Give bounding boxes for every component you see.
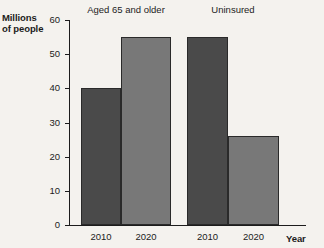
bar [187,37,228,225]
bar [228,136,279,225]
y-tick-mark [65,191,69,192]
y-tick-label: 20 [40,152,60,162]
x-axis-line [69,225,306,226]
y-tick-label: 10 [40,186,60,196]
y-tick-label: 60 [40,15,60,25]
y-tick-mark [65,225,69,226]
y-tick-mark [65,88,69,89]
group-label: Aged 65 and older [81,4,171,15]
bar-chart: Millions of people Year 6050403020100 Ag… [0,0,324,248]
bar [121,37,171,225]
y-tick-mark [65,157,69,158]
y-tick-label: 0 [40,220,60,230]
y-tick-mark [65,20,69,21]
y-tick-label: 30 [40,118,60,128]
bar [81,88,121,225]
y-tick-label: 40 [40,83,60,93]
y-tick-mark [65,54,69,55]
plot-area: 6050403020100 Aged 65 and olderUninsured… [69,20,306,225]
y-tick-label: 50 [40,49,60,59]
x-axis-title: Year [286,233,306,244]
y-tick-mark [65,123,69,124]
x-tick-label: 2010 [81,231,121,242]
y-axis-line [69,20,70,226]
x-tick-label: 2020 [228,231,279,242]
x-tick-label: 2010 [187,231,228,242]
group-label: Uninsured [187,4,279,15]
x-tick-label: 2020 [121,231,171,242]
